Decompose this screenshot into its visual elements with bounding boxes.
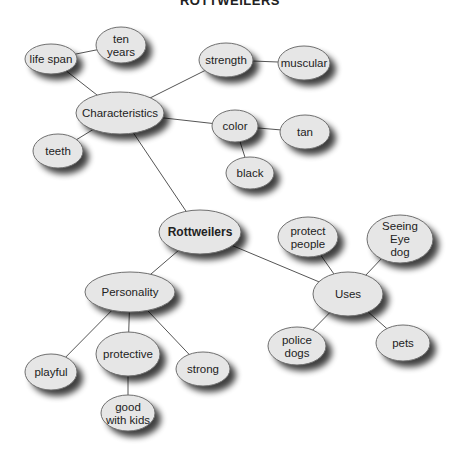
node-characteristics[interactable]: Characteristics bbox=[76, 92, 170, 140]
node-label: Characteristics bbox=[82, 107, 158, 119]
node-label: tan bbox=[297, 126, 313, 138]
node-label: color bbox=[223, 120, 248, 132]
node-rottweilers[interactable]: Rottweilers bbox=[159, 210, 247, 260]
node-uses[interactable]: Uses bbox=[313, 272, 389, 322]
node-good-with-kids[interactable]: goodwith kids bbox=[101, 395, 161, 437]
node-label: Personality bbox=[102, 286, 159, 298]
node-life-span[interactable]: life span bbox=[25, 44, 83, 80]
node-label: dogs bbox=[285, 347, 310, 359]
node-ten-years[interactable]: tenyears bbox=[96, 27, 152, 69]
node-label: Seeing bbox=[382, 220, 418, 232]
node-color[interactable]: color bbox=[212, 110, 264, 148]
node-label: Eye bbox=[390, 233, 410, 245]
node-protective[interactable]: protective bbox=[96, 332, 166, 382]
node-label: protective bbox=[103, 348, 153, 360]
node-label: strength bbox=[205, 54, 247, 66]
node-label: teeth bbox=[45, 145, 71, 157]
node-label: life span bbox=[30, 53, 73, 65]
node-police-dogs[interactable]: policedogs bbox=[268, 327, 332, 371]
node-label: police bbox=[282, 334, 312, 346]
node-playful[interactable]: playful bbox=[25, 354, 83, 396]
node-pets[interactable]: pets bbox=[376, 325, 436, 367]
node-label: good bbox=[115, 401, 141, 413]
node-protect-people[interactable]: protectpeople bbox=[278, 217, 344, 263]
node-label: playful bbox=[34, 366, 67, 378]
concept-map: RottweilersCharacteristicslife spantenye… bbox=[0, 0, 460, 458]
node-label: dog bbox=[390, 246, 409, 258]
node-label: Rottweilers bbox=[168, 225, 233, 239]
node-personality[interactable]: Personality bbox=[85, 272, 181, 318]
node-label: Uses bbox=[335, 288, 361, 300]
node-label: years bbox=[107, 46, 135, 58]
node-label: protect bbox=[290, 225, 326, 237]
node-label: pets bbox=[392, 337, 414, 349]
node-label: with kids bbox=[105, 414, 150, 426]
node-seeing-eye-dog[interactable]: SeeingEyedog bbox=[367, 215, 439, 269]
node-strength[interactable]: strength bbox=[199, 43, 259, 83]
node-label: ten bbox=[113, 33, 129, 45]
nodes-layer: RottweilersCharacteristicslife spantenye… bbox=[25, 27, 439, 437]
node-label: muscular bbox=[281, 57, 328, 69]
node-teeth[interactable]: teeth bbox=[33, 134, 89, 174]
node-black[interactable]: black bbox=[226, 157, 280, 195]
node-label: strong bbox=[187, 363, 219, 375]
node-muscular[interactable]: muscular bbox=[278, 46, 336, 86]
node-tan[interactable]: tan bbox=[280, 115, 336, 155]
node-label: people bbox=[291, 238, 326, 250]
node-strong[interactable]: strong bbox=[176, 352, 236, 392]
node-label: black bbox=[237, 167, 264, 179]
